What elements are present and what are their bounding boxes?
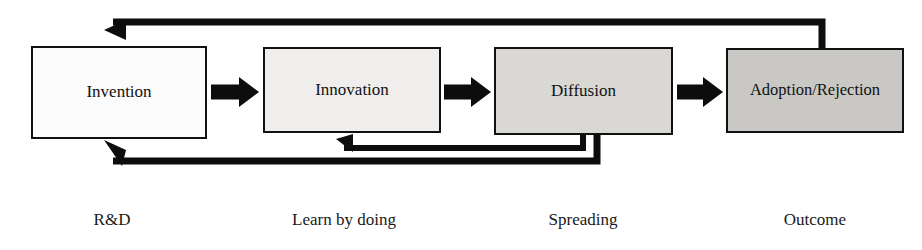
flow-arrow-invention-to-innovation-icon [211,77,259,107]
feedback-line-bottom-inner [344,134,583,148]
diagram-root: Invention Innovation Diffusion Adoption/… [0,0,922,250]
stage-diffusion: Diffusion [495,48,672,134]
stage-adoption-rejection: Adoption/Rejection [727,49,903,132]
process-flow-diagram: Invention Innovation Diffusion Adoption/… [0,0,922,250]
stage-adoption-rejection-label: Adoption/Rejection [750,80,880,99]
caption-diffusion: Spreading [549,210,618,229]
feedback-line-top [113,22,822,49]
caption-adoption-rejection: Outcome [784,210,846,229]
stage-invention: Invention [32,47,206,138]
caption-innovation: Learn by doing [292,210,396,229]
feedback-loop-diffusion-to-innovation [336,134,583,152]
flow-arrow-innovation-to-diffusion-icon [444,77,491,107]
stage-innovation: Innovation [264,48,440,132]
stage-innovation-label: Innovation [315,80,389,99]
caption-invention: R&D [94,210,131,229]
feedback-loop-adoption-to-invention-top [104,20,822,49]
stage-diffusion-label: Diffusion [551,81,616,100]
flow-arrow-diffusion-to-adoption-icon [677,77,723,107]
stage-invention-label: Invention [86,82,152,101]
